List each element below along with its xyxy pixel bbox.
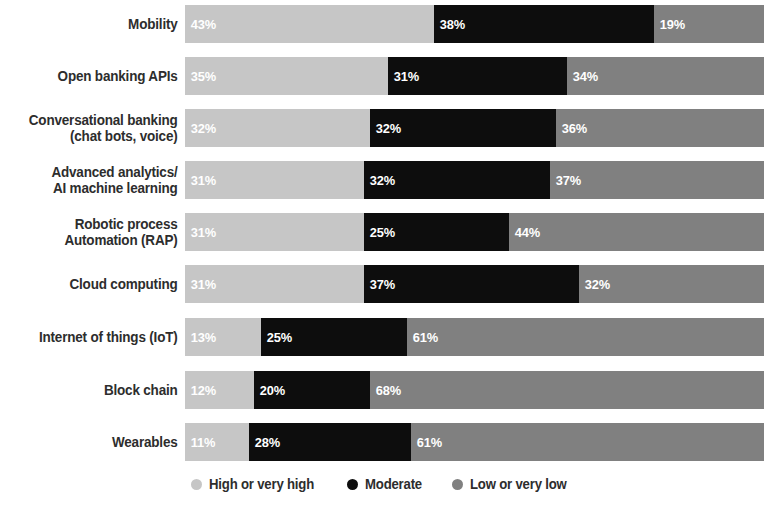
bar-track: 11%28%61% [185, 423, 764, 461]
bar-segment-value: 19% [654, 17, 685, 32]
bar-segment-value: 25% [364, 225, 395, 240]
bar-segment-high: 11% [185, 423, 249, 461]
legend-swatch-icon [452, 479, 463, 490]
bar-segment-high: 43% [185, 5, 434, 43]
chart-legend: High or very highModerateLow or very low [0, 476, 764, 492]
bar-segment-value: 25% [261, 330, 292, 345]
bar-segment-value: 35% [185, 69, 216, 84]
bar-row: Open banking APIs35%31%34% [0, 57, 764, 95]
bar-segment-value: 44% [509, 225, 540, 240]
legend-label: Moderate [365, 476, 422, 492]
bar-segment-high: 31% [185, 161, 364, 199]
bar-row: Conversational banking (chat bots, voice… [0, 109, 764, 147]
bar-segment-mod: 25% [364, 213, 509, 251]
bar-segment-mod: 32% [364, 161, 549, 199]
bar-segment-high: 35% [185, 57, 388, 95]
bar-segment-low: 68% [370, 371, 764, 409]
bar-segment-value: 31% [185, 173, 216, 188]
bar-segment-value: 31% [185, 225, 216, 240]
bar-segment-value: 37% [550, 173, 581, 188]
bar-segment-mod: 38% [434, 5, 654, 43]
bar-segment-value: 61% [407, 330, 438, 345]
bar-segment-value: 31% [185, 277, 216, 292]
bar-track: 31%25%44% [185, 213, 764, 251]
legend-item[interactable]: High or very high [191, 476, 321, 492]
bar-track: 31%37%32% [185, 265, 764, 303]
bar-segment-value: 32% [185, 121, 216, 136]
category-label: Conversational banking (chat bots, voice… [13, 112, 185, 144]
bar-segment-low: 37% [550, 161, 764, 199]
bar-segment-mod: 25% [261, 318, 407, 356]
chart-plot-area: Mobility43%38%19%Open banking APIs35%31%… [0, 0, 764, 470]
bar-segment-low: 32% [579, 265, 764, 303]
bar-track: 43%38%19% [185, 5, 764, 43]
category-label: Advanced analytics/ AI machine learning [13, 164, 185, 196]
bar-segment-low: 36% [556, 109, 764, 147]
category-label: Open banking APIs [13, 68, 185, 84]
bar-segment-low: 61% [407, 318, 764, 356]
bar-segment-mod: 32% [370, 109, 555, 147]
legend-label: High or very high [209, 476, 314, 492]
bar-track: 35%31%34% [185, 57, 764, 95]
bar-segment-value: 32% [579, 277, 610, 292]
bar-segment-mod: 28% [249, 423, 411, 461]
category-label: Block chain [13, 382, 185, 398]
legend-label: Low or very low [470, 476, 567, 492]
bar-row: Wearables11%28%61% [0, 423, 764, 461]
legend-swatch-icon [191, 479, 202, 490]
bar-track: 32%32%36% [185, 109, 764, 147]
bar-segment-mod: 20% [254, 371, 370, 409]
bar-segment-value: 12% [185, 383, 216, 398]
legend-item[interactable]: Low or very low [452, 476, 573, 492]
bar-segment-value: 32% [364, 173, 395, 188]
bar-segment-mod: 37% [364, 265, 578, 303]
bar-segment-value: 34% [567, 69, 598, 84]
category-label: Wearables [13, 434, 185, 450]
bar-row: Block chain12%20%68% [0, 371, 764, 409]
bar-segment-low: 19% [654, 5, 764, 43]
legend-swatch-icon [347, 479, 358, 490]
category-label: Cloud computing [13, 276, 185, 292]
bar-segment-value: 20% [254, 383, 285, 398]
bar-segment-high: 31% [185, 265, 364, 303]
bar-segment-low: 61% [411, 423, 764, 461]
bar-segment-value: 38% [434, 17, 465, 32]
stacked-bar-chart: Mobility43%38%19%Open banking APIs35%31%… [0, 0, 764, 510]
bar-segment-value: 28% [249, 435, 280, 450]
bar-track: 31%32%37% [185, 161, 764, 199]
bar-row: Cloud computing31%37%32% [0, 265, 764, 303]
bar-segment-value: 37% [364, 277, 395, 292]
bar-segment-low: 44% [509, 213, 764, 251]
bar-segment-value: 68% [370, 383, 401, 398]
bar-segment-value: 11% [185, 435, 215, 450]
bar-segment-value: 13% [185, 330, 216, 345]
bar-segment-high: 12% [185, 371, 254, 409]
category-label: Internet of things (IoT) [13, 329, 185, 345]
category-label: Robotic process Automation (RAP) [13, 216, 185, 248]
bar-row: Robotic process Automation (RAP)31%25%44… [0, 213, 764, 251]
bar-segment-value: 31% [388, 69, 419, 84]
bar-segment-value: 43% [185, 17, 216, 32]
bar-segment-high: 31% [185, 213, 364, 251]
bar-row: Advanced analytics/ AI machine learning3… [0, 161, 764, 199]
bar-row: Mobility43%38%19% [0, 5, 764, 43]
bar-segment-high: 13% [185, 318, 261, 356]
category-label: Mobility [13, 16, 185, 32]
bar-track: 12%20%68% [185, 371, 764, 409]
bar-segment-high: 32% [185, 109, 370, 147]
bar-segment-mod: 31% [388, 57, 567, 95]
legend-item[interactable]: Moderate [347, 476, 426, 492]
bar-segment-value: 32% [370, 121, 401, 136]
bar-segment-value: 36% [556, 121, 587, 136]
bar-track: 13%25%61% [185, 318, 764, 356]
bar-segment-low: 34% [567, 57, 764, 95]
bar-segment-value: 61% [411, 435, 442, 450]
bar-row: Internet of things (IoT)13%25%61% [0, 318, 764, 356]
